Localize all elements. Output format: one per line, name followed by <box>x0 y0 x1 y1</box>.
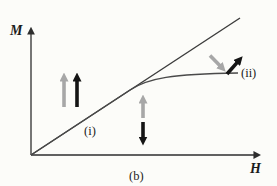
y-axis-label: M <box>9 23 23 38</box>
moment-arrow-black-upright-icon <box>227 62 238 74</box>
magnetization-vs-field-figure: M H (i) (ii) (b) <box>0 0 277 186</box>
saturating-curve-ii <box>31 73 238 155</box>
figure-caption: (b) <box>129 169 144 183</box>
moment-arrow-gray-downright-icon <box>210 56 221 67</box>
figure-canvas: M H (i) (ii) (b) <box>0 0 277 186</box>
curve-ii-label: (ii) <box>241 66 256 80</box>
curve-i-label: (i) <box>84 124 96 138</box>
x-axis-label: H <box>249 161 262 176</box>
